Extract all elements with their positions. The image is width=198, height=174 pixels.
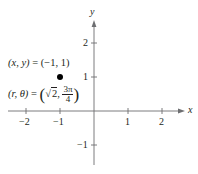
polar-theta: 3π4 [62, 85, 73, 104]
x-axis-label: x [188, 105, 192, 115]
x-tick-label: 2 [159, 117, 164, 127]
polar-lhs: (r, θ) [8, 88, 28, 99]
polar-coordinates-label: (r, θ) = (√2, 3π4) [8, 85, 79, 104]
y-tick-label: 1 [83, 72, 88, 82]
rect-rhs: = (−1, 1) [32, 57, 69, 68]
rectangular-coordinates-label: (x, y) = (−1, 1) [8, 57, 69, 69]
polar-eq: = [31, 88, 37, 99]
point-marker [57, 74, 63, 80]
right-paren: ) [73, 85, 79, 104]
x-axis-arrow-icon [178, 109, 185, 114]
y-axis-label: y [90, 7, 94, 17]
theta-denominator: 4 [62, 95, 73, 104]
y-tick-label: −1 [77, 140, 88, 150]
y-axis-arrow-icon [92, 20, 97, 27]
y-tick-label: 2 [83, 38, 88, 48]
x-tick-label: −1 [53, 117, 64, 127]
x-tick-label: −2 [19, 117, 30, 127]
x-tick-label: 1 [125, 117, 130, 127]
rect-lhs: (x, y) [8, 57, 30, 68]
